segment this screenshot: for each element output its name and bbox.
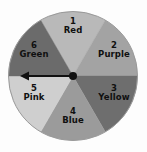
spinner-figure: 1 Red 2 Purple 3 Yellow 4 Blue 5 Pink 6 … [0,0,147,152]
spinner-hub[interactable] [69,72,77,80]
spinner-wheel-graphic[interactable] [0,0,147,152]
